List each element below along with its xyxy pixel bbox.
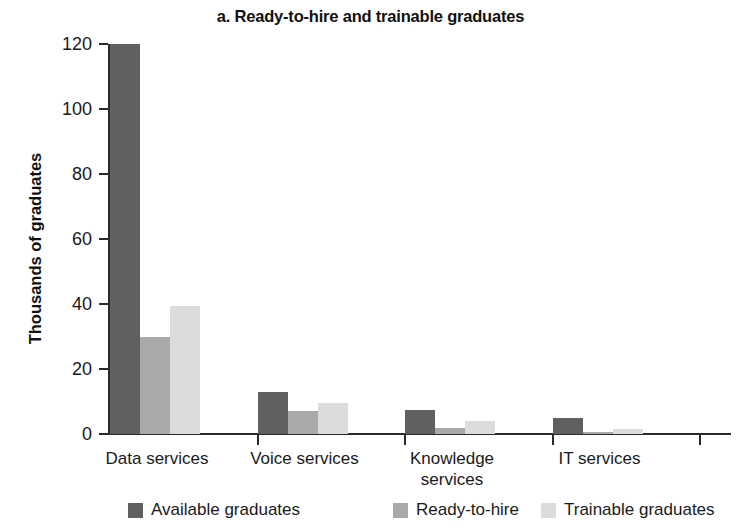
bar (318, 403, 348, 434)
y-tick-label: 60 (30, 229, 92, 250)
x-cat-label-line: Data services (77, 448, 237, 469)
legend-swatch-icon (393, 503, 408, 518)
legend-label: Available graduates (151, 500, 300, 520)
bar (583, 432, 613, 434)
y-tick-label: 80 (30, 164, 92, 185)
y-tick-mark (99, 43, 108, 45)
bar (435, 428, 465, 435)
x-cat-label: IT services (520, 448, 680, 469)
legend-swatch-icon (541, 503, 556, 518)
chart-legend: Available graduatesReady-to-hireTrainabl… (0, 500, 741, 529)
page-title: a. Ready-to-hire and trainable graduates (0, 7, 741, 26)
y-tick-label: 20 (30, 359, 92, 380)
x-cat-label-line: IT services (520, 448, 680, 469)
bar (170, 306, 200, 434)
legend-swatch-icon (128, 503, 143, 518)
x-tick-mark (552, 435, 554, 445)
x-cat-label-line: Knowledge (372, 448, 532, 469)
bar (110, 44, 140, 434)
y-tick-mark (99, 173, 108, 175)
x-cat-label-line: services (372, 469, 532, 490)
y-tick-mark (99, 433, 108, 435)
y-tick-mark (99, 368, 108, 370)
legend-item[interactable]: Trainable graduates (541, 500, 715, 520)
bar (553, 418, 583, 434)
x-cat-label: Voice services (225, 448, 385, 469)
bar (258, 392, 288, 434)
x-cat-label: Knowledgeservices (372, 448, 532, 490)
x-cat-label: Data services (77, 448, 237, 469)
legend-label: Trainable graduates (564, 500, 715, 520)
bar (140, 337, 170, 435)
legend-item[interactable]: Available graduates (128, 500, 300, 520)
x-tick-mark (404, 435, 406, 445)
bar (288, 411, 318, 434)
legend-item[interactable]: Ready-to-hire (393, 500, 519, 520)
x-tick-mark (699, 435, 701, 445)
bar (613, 429, 643, 434)
y-tick-label: 40 (30, 294, 92, 315)
y-tick-label: 0 (30, 424, 92, 445)
legend-label: Ready-to-hire (416, 500, 519, 520)
x-cat-label-line: Voice services (225, 448, 385, 469)
bar (405, 410, 435, 434)
bar (465, 421, 495, 434)
y-tick-mark (99, 238, 108, 240)
plot-area (110, 44, 700, 434)
x-tick-mark (257, 435, 259, 445)
y-tick-mark (99, 108, 108, 110)
y-tick-label: 100 (30, 99, 92, 120)
y-tick-mark (99, 303, 108, 305)
y-tick-label: 120 (30, 34, 92, 55)
